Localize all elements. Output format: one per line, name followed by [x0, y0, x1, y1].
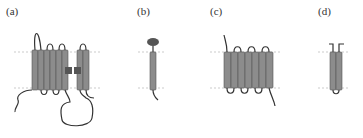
panel-b	[147, 38, 159, 100]
domain-square-right	[74, 67, 81, 74]
membrane-protein-diagram	[0, 0, 363, 138]
panel-a	[15, 34, 94, 126]
panel-d	[329, 44, 344, 94]
panel-c	[224, 35, 275, 106]
domain-square-left	[65, 67, 72, 74]
